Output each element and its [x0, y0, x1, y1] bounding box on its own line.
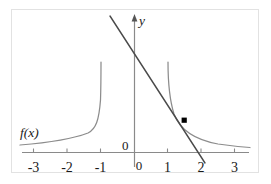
x-tick-label--3: -3 [28, 160, 40, 175]
function-curve-right-branch [168, 62, 250, 148]
function-plot: f(x) y 0 -3 -2 -1 0 1 2 3 [0, 0, 271, 184]
y-axis-label: y [137, 13, 145, 28]
y-axis-arrow-icon [132, 14, 138, 22]
figure-container: f(x) y 0 -3 -2 -1 0 1 2 3 [0, 0, 271, 184]
x-tick-label-1: 1 [164, 160, 171, 175]
x-tick-label--2: -2 [61, 160, 73, 175]
x-tick-label-2: 2 [198, 160, 205, 175]
function-label: f(x) [20, 125, 39, 140]
origin-label: 0 [122, 138, 129, 153]
tangency-point-marker [182, 118, 187, 123]
x-tick-label-0: 0 [136, 158, 143, 173]
x-tick-label-3: 3 [231, 160, 238, 175]
x-tick-label--1: -1 [95, 160, 107, 175]
